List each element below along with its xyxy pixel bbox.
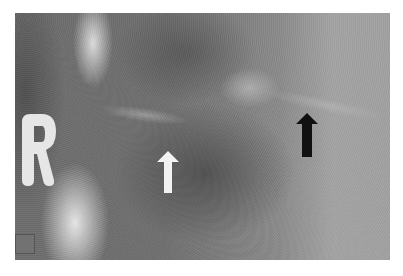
- black-arrow-icon: [296, 113, 318, 157]
- white-arrow-icon: [157, 151, 179, 193]
- calibration-square: [15, 234, 35, 254]
- side-marker-r: R: [18, 112, 58, 188]
- radiograph-image: [15, 13, 390, 260]
- film-grain: [15, 13, 390, 260]
